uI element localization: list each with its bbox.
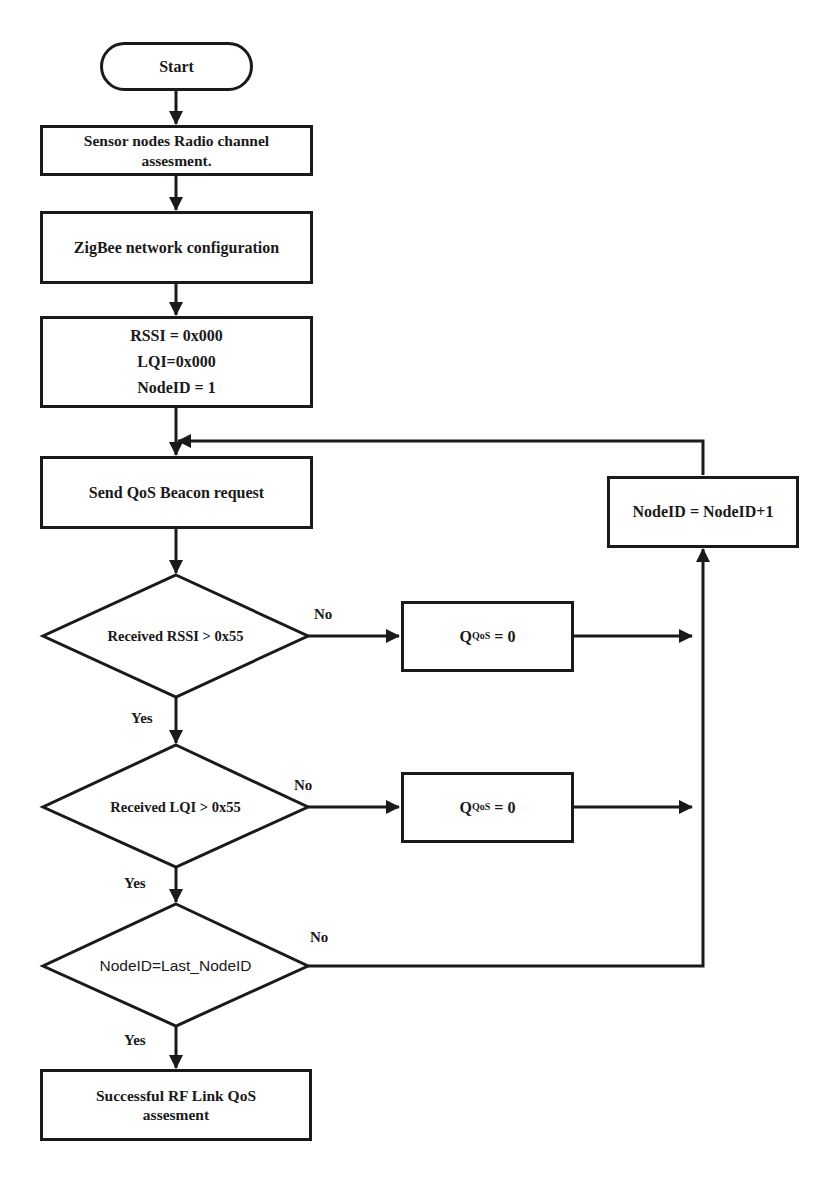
init-lqi: LQI=0x000 — [137, 352, 215, 372]
channel-assessment-line1: Sensor nodes Radio channel — [84, 131, 269, 150]
label-rssi-yes: Yes — [131, 710, 153, 727]
channel-assessment-line2: assesment. — [141, 151, 211, 170]
decision-rssi: Received RSSI > 0x55 — [43, 620, 308, 652]
qos-zero-box-1: QQoS = 0 — [401, 601, 574, 672]
label-lqi-no: No — [294, 777, 312, 794]
label-rssi-no: No — [314, 606, 332, 623]
label-last-yes: Yes — [124, 1032, 146, 1049]
qos-zero-box-2: QQoS = 0 — [401, 772, 574, 843]
end-box: Successful RF Link QoS assesment — [40, 1069, 312, 1141]
send-beacon-label: Send QoS Beacon request — [89, 483, 264, 503]
send-beacon-box: Send QoS Beacon request — [40, 456, 313, 529]
qos1-main: Q — [460, 627, 472, 647]
decision-last-node-label: NodeID=Last_NodeID — [99, 957, 251, 975]
decision-lqi-label: Received LQI > 0x55 — [110, 799, 240, 816]
zigbee-config-label: ZigBee network configuration — [74, 238, 279, 258]
channel-assessment-box: Sensor nodes Radio channel assesment. — [40, 125, 313, 176]
decision-last-node: NodeID=Last_NodeID — [43, 950, 308, 982]
increment-label: NodeID = NodeID+1 — [633, 502, 774, 522]
init-nodeid: NodeID = 1 — [137, 378, 215, 398]
label-lqi-yes: Yes — [124, 875, 146, 892]
decision-lqi: Received LQI > 0x55 — [43, 791, 308, 823]
qos2-sub: QoS — [472, 801, 490, 814]
end-line2: assesment — [143, 1105, 209, 1124]
label-last-no: No — [310, 929, 328, 946]
init-rssi: RSSI = 0x000 — [130, 326, 223, 346]
qos1-rest: = 0 — [490, 627, 515, 647]
zigbee-config-box: ZigBee network configuration — [40, 211, 313, 284]
init-variables-box: RSSI = 0x000 LQI=0x000 NodeID = 1 — [40, 316, 313, 408]
increment-nodeid-box: NodeID = NodeID+1 — [607, 476, 799, 548]
qos1-sub: QoS — [472, 630, 490, 643]
qos2-rest: = 0 — [490, 798, 515, 818]
decision-rssi-label: Received RSSI > 0x55 — [108, 628, 244, 645]
start-terminator: Start — [100, 42, 253, 91]
end-line1: Successful RF Link QoS — [96, 1086, 256, 1105]
qos2-main: Q — [460, 798, 472, 818]
connector-layer — [0, 0, 835, 1181]
start-label: Start — [159, 57, 194, 77]
